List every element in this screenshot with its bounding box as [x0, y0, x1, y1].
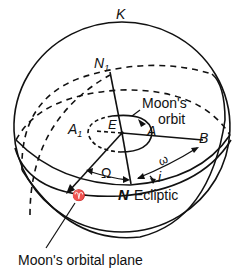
- E-to-B-line: [122, 133, 203, 140]
- label-A: A: [146, 123, 156, 139]
- omega-arrow-left: [137, 173, 145, 179]
- label-orbital-plane: Moon's orbital plane: [18, 252, 143, 268]
- label-moons-orbit-2: orbit: [158, 111, 185, 127]
- label-moons-orbit-1: Moon's: [142, 95, 187, 111]
- label-K: K: [116, 6, 126, 22]
- label-A1: A1: [67, 121, 82, 139]
- moons-orbit-leader: [132, 110, 140, 116]
- omega-arrow-right: [191, 147, 199, 153]
- earth-center-point: [120, 131, 124, 135]
- label-N1: N1: [94, 55, 109, 73]
- label-aries: ♈: [72, 189, 86, 202]
- inner-great-circle: [30, 75, 110, 215]
- celestial-sphere-diagram: K N1 A1 E A B Moon's orbit ω Ω i ♈ N Ecl…: [0, 0, 244, 276]
- label-N: N: [118, 186, 130, 203]
- orbital-plane-front: [22, 74, 225, 238]
- label-E: E: [108, 117, 117, 132]
- label-inclination: i: [158, 169, 162, 185]
- label-Omega: Ω: [101, 165, 111, 181]
- label-ecliptic: Ecliptic: [134, 187, 178, 203]
- orbital-plane-leader: [46, 203, 75, 248]
- Omega-arrow-right: [123, 176, 130, 183]
- label-omega: ω: [155, 152, 170, 169]
- label-B: B: [199, 130, 208, 146]
